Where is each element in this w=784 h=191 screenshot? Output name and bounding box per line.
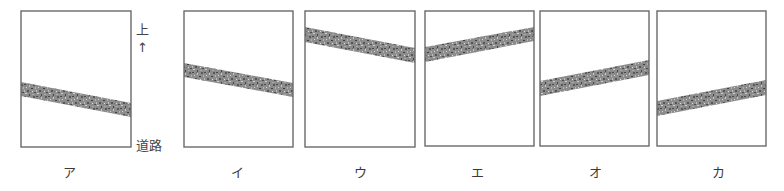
panel-label: エ bbox=[471, 166, 484, 179]
panel-label: ア bbox=[63, 166, 76, 179]
figure-canvas bbox=[0, 0, 784, 191]
panel-5 bbox=[540, 11, 649, 146]
up-label: 上 bbox=[136, 23, 149, 37]
up-arrow-icon: ↑ bbox=[137, 41, 148, 55]
panel-1 bbox=[21, 11, 131, 147]
panel-label: オ bbox=[589, 166, 602, 179]
panel-label: カ bbox=[712, 166, 725, 179]
road-label: 道路 bbox=[136, 139, 162, 153]
panels-layer bbox=[21, 11, 766, 147]
panel-2 bbox=[184, 11, 293, 147]
panel-label: ウ bbox=[354, 166, 367, 179]
panel-label: イ bbox=[231, 166, 244, 179]
panel-6 bbox=[657, 11, 766, 146]
panel-3 bbox=[305, 11, 415, 147]
panel-4 bbox=[425, 11, 534, 146]
